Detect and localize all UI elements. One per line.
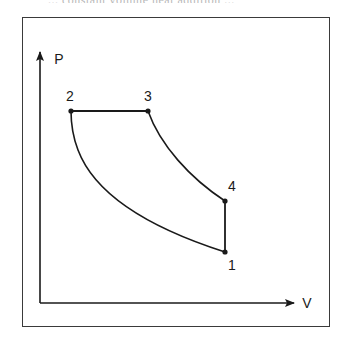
process-1-2-curve [71,111,225,252]
state-point-2 [68,108,73,113]
v-axis-label: V [302,296,311,310]
point-label-1: 1 [228,258,236,272]
state-point-4 [222,198,227,203]
p-axis-label: P [54,52,63,66]
state-point-1 [222,249,227,254]
point-label-4: 4 [228,179,236,193]
process-3-4-curve [148,111,225,201]
pv-diagram [0,0,347,339]
state-point-3 [145,108,150,113]
point-label-2: 2 [66,89,74,103]
point-label-3: 3 [144,89,152,103]
